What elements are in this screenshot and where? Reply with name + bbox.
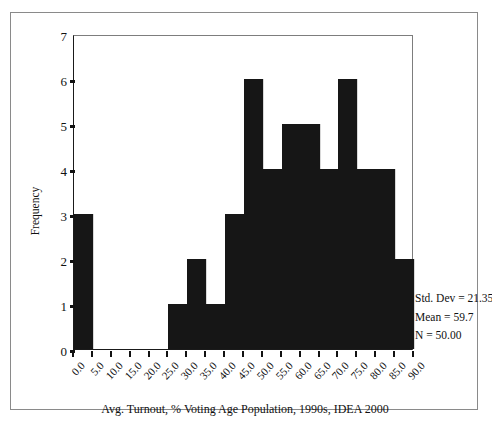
x-tick-label: 5.0 [88,360,105,378]
stat-mean: Mean = 59.7 [415,308,492,327]
figure-border: Frequency 01234567 0.05.010.015.020.025.… [10,12,478,410]
histogram-bar [168,304,188,349]
y-tick-mark [70,305,75,308]
histogram-bar [338,79,358,349]
x-tick-label: 50.0 [255,360,276,382]
x-tick-mark [129,351,131,357]
y-tick-label: 2 [61,255,68,268]
x-tick-mark [148,351,150,357]
x-axis-title: Avg. Turnout, % Voting Age Population, 1… [21,402,469,417]
histogram-bar [376,169,396,349]
x-tick-label: 45.0 [236,360,257,382]
x-tick-mark [223,351,225,357]
histogram-bar [225,214,245,349]
x-tick-label: 90.0 [406,360,427,382]
x-tick-label: 65.0 [311,360,332,382]
x-tick-mark [242,351,244,357]
y-tick-label: 5 [61,120,68,133]
histogram-bar [187,259,207,349]
x-tick-mark [393,351,395,357]
histogram-bar [282,124,302,349]
x-tick-label: 35.0 [198,360,219,382]
x-tick-label: 80.0 [368,360,389,382]
x-tick-mark [280,351,282,357]
histogram-bar [244,79,264,349]
x-tick-mark [185,351,187,357]
x-tick-label: 85.0 [387,360,408,382]
x-tick-label: 40.0 [217,360,238,382]
x-tick-label: 15.0 [123,360,144,382]
x-tick-label: 55.0 [274,360,295,382]
x-tick-label: 75.0 [349,360,370,382]
x-tick-mark [72,351,74,357]
histogram-bar [320,169,340,349]
histogram-bar [301,124,321,349]
histogram-bar [395,259,415,349]
y-tick-label: 4 [61,165,68,178]
x-tick-mark [110,351,112,357]
statistics-annotation: Std. Dev = 21.35 Mean = 59.7 N = 50.00 [415,289,492,345]
histogram-bar [263,169,283,349]
histogram-bar [357,169,377,349]
y-tick-label: 0 [61,345,68,358]
y-tick-label: 6 [61,75,68,88]
y-tick-mark [70,35,75,38]
x-tick-label: 60.0 [293,360,314,382]
y-tick-mark [70,215,75,218]
y-tick-label: 7 [61,30,68,43]
y-tick-mark [70,125,75,128]
x-tick-mark [261,351,263,357]
x-tick-mark [318,351,320,357]
y-tick-mark [70,260,75,263]
x-tick-mark [336,351,338,357]
x-tick-label: 20.0 [141,360,162,382]
x-tick-mark [166,351,168,357]
y-tick-mark [70,80,75,83]
stat-std-dev: Std. Dev = 21.35 [415,289,492,308]
stat-n: N = 50.00 [415,326,492,345]
x-tick-label: 30.0 [179,360,200,382]
y-tick-mark [70,170,75,173]
x-tick-label: 70.0 [330,360,351,382]
x-tick-mark [355,351,357,357]
x-tick-label: 0.0 [70,360,87,378]
x-tick-label: 25.0 [160,360,181,382]
histogram-bar [206,304,226,349]
histogram-figure: Frequency 01234567 0.05.010.015.020.025.… [0,0,492,426]
y-tick-label: 3 [61,210,68,223]
bars-group [74,36,412,349]
plot-area: 01234567 [73,35,413,350]
x-tick-mark [204,351,206,357]
x-tick-mark [91,351,93,357]
x-tick-label: 10.0 [104,360,125,382]
y-tick-label: 1 [61,300,68,313]
x-tick-mark [412,351,414,357]
histogram-bar [74,214,94,349]
x-tick-mark [299,351,301,357]
x-tick-mark [374,351,376,357]
y-axis-title: Frequency [29,187,41,236]
